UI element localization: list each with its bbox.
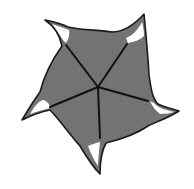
pinwheel-diagram <box>0 0 194 189</box>
pinwheel-figure: Five-armed pinwheel shape with curved ho… <box>0 0 194 189</box>
center-point <box>97 86 100 89</box>
pinwheel-body <box>22 14 179 174</box>
